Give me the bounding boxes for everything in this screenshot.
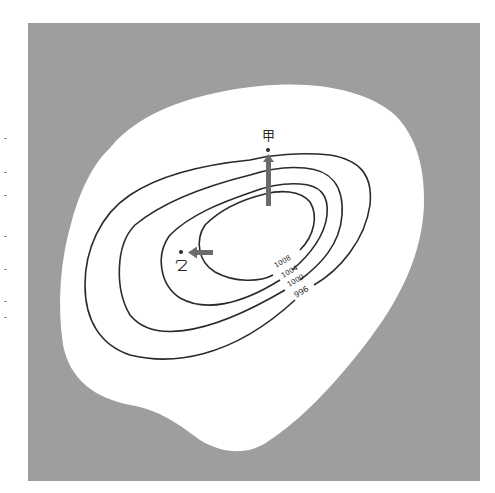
point-yi-label: 乙 <box>175 258 188 273</box>
arrow-west-shaft <box>196 250 213 255</box>
point-jia-label: 甲 <box>262 128 275 143</box>
arrow-north-shaft <box>266 160 271 206</box>
isobar-map: 1008 1004 1000 996 甲 乙 <box>0 0 495 493</box>
point-jia-dot <box>266 148 270 152</box>
point-yi-dot <box>179 250 183 254</box>
